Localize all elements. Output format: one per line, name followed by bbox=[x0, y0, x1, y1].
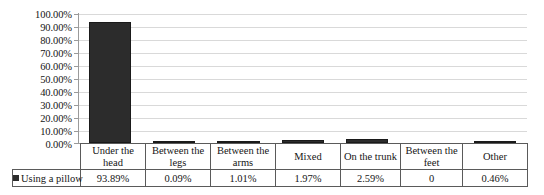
bar-slot-on-the-trunk bbox=[335, 14, 399, 143]
value-mixed: 1.97% bbox=[276, 170, 341, 187]
bar-chart-figure: 100.00% 90.00% 80.00% 70.00% 60.00% 50.0… bbox=[0, 0, 544, 195]
table-corner-blank bbox=[13, 144, 81, 170]
category-header-between-the-arms: Between the arms bbox=[211, 144, 276, 170]
bar-series-using-a-pillow bbox=[78, 14, 527, 143]
bar-slot-mixed bbox=[271, 14, 335, 143]
value-other: 0.46% bbox=[463, 170, 528, 187]
table-row-values: Using a pillow 93.89% 0.09% 1.01% 1.97% … bbox=[13, 170, 528, 187]
y-tick-label-50: 50.00% bbox=[2, 75, 72, 85]
y-tick-label-80: 80.00% bbox=[2, 36, 72, 46]
legend-series-using-a-pillow: Using a pillow bbox=[13, 170, 81, 187]
y-tick-label-90: 90.00% bbox=[2, 23, 72, 33]
bar-slot-between-the-arms bbox=[206, 14, 270, 143]
y-tick-label-40: 40.00% bbox=[2, 88, 72, 98]
table-row-categories: Under the head Between the legs Between … bbox=[13, 144, 528, 170]
bar-slot-between-the-legs bbox=[142, 14, 206, 143]
value-on-the-trunk: 2.59% bbox=[341, 170, 401, 187]
value-between-the-arms: 1.01% bbox=[211, 170, 276, 187]
category-header-under-the-head: Under the head bbox=[81, 144, 146, 170]
bar-under-the-head bbox=[89, 22, 131, 143]
category-header-other: Other bbox=[463, 144, 528, 170]
bar-slot-under-the-head bbox=[78, 14, 142, 143]
value-between-the-legs: 0.09% bbox=[146, 170, 211, 187]
y-tick-label-20: 20.00% bbox=[2, 114, 72, 124]
legend-series-label: Using a pillow bbox=[21, 173, 83, 184]
value-between-the-feet: 0 bbox=[401, 170, 463, 187]
category-header-on-the-trunk: On the trunk bbox=[341, 144, 401, 170]
category-header-mixed: Mixed bbox=[276, 144, 341, 170]
y-tick-label-70: 70.00% bbox=[2, 49, 72, 59]
category-header-between-the-legs: Between the legs bbox=[146, 144, 211, 170]
bar-slot-between-the-feet bbox=[399, 14, 463, 143]
chart-data-table: Under the head Between the legs Between … bbox=[12, 143, 528, 187]
category-header-between-the-feet: Between the feet bbox=[401, 144, 463, 170]
legend-swatch-icon bbox=[13, 175, 19, 181]
value-under-the-head: 93.89% bbox=[81, 170, 146, 187]
y-tick-label-10: 10.00% bbox=[2, 127, 72, 137]
bar-slot-other bbox=[463, 14, 527, 143]
y-tick-label-100: 100.00% bbox=[2, 10, 72, 20]
y-tick-label-30: 30.00% bbox=[2, 101, 72, 111]
y-tick-label-60: 60.00% bbox=[2, 62, 72, 72]
